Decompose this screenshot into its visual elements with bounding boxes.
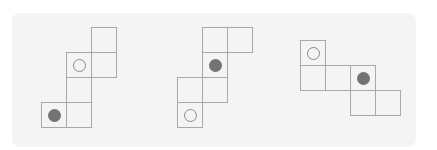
net-cell [202,27,228,53]
net-cell [300,65,326,91]
net-cell [325,65,351,91]
net-cell [91,27,117,53]
net-cell [66,52,92,78]
net-cell [91,52,117,78]
open-circle-icon [307,47,320,60]
open-circle-icon [184,109,197,122]
filled-circle-icon [357,72,370,85]
net-cell [177,102,203,128]
net-cell [375,90,401,116]
net-cell [227,27,253,53]
net-cell [202,52,228,78]
net-cell [66,102,92,128]
net-cell [177,77,203,103]
net-cell [66,77,92,103]
net-cell [350,65,376,91]
filled-circle-icon [48,109,61,122]
net-cell [202,77,228,103]
net-cell [41,102,67,128]
net-cell [350,90,376,116]
open-circle-icon [73,59,86,72]
net-cell [300,40,326,66]
filled-circle-icon [209,59,222,72]
